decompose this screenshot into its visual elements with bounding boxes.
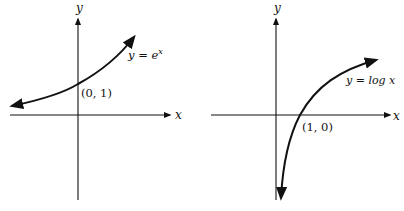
exponential-curve — [12, 37, 134, 106]
y-axis-label: y — [273, 1, 281, 15]
function-graphs-diagram: y x (0, 1) y = ex y x (1, 0) y = log x — [0, 0, 404, 211]
logarithm-graph: y x (1, 0) y = log x — [211, 1, 400, 200]
equation-label: y = ex — [127, 47, 163, 62]
equation-label: y = log x — [345, 74, 396, 87]
point-label: (1, 0) — [302, 120, 333, 134]
x-axis-label: x — [175, 108, 182, 122]
exponential-graph: y x (0, 1) y = ex — [10, 1, 182, 200]
x-axis-label: x — [393, 109, 400, 123]
y-axis-label: y — [75, 1, 83, 15]
point-label: (0, 1) — [81, 86, 112, 100]
